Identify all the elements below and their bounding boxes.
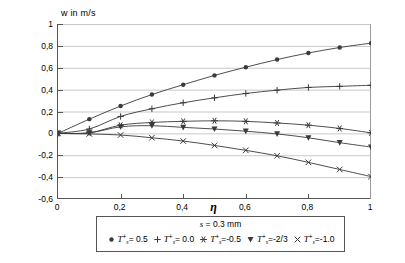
legend-marker-cross-icon <box>293 235 302 244</box>
legend-item: T+s=-0.5 <box>199 231 241 248</box>
legend-item: T+s=-1.0 <box>293 231 335 248</box>
y-tick-label: -0,4 <box>27 172 53 182</box>
legend: s = 0.3 mm T+s= 0.5T+s= 0.0T+s=-0.5T+s=-… <box>96 216 345 252</box>
legend-item-label: T+s=-2/3 <box>257 231 288 248</box>
legend-condition: s = 0.3 mm <box>97 219 344 230</box>
plot-canvas <box>58 24 371 199</box>
legend-marker-plus-icon <box>153 235 162 244</box>
data-marker <box>369 41 371 45</box>
legend-condition-value: = 0.3 mm <box>206 219 242 229</box>
legend-marker-filled-circle-icon <box>107 235 116 244</box>
x-tick-label: 0,8 <box>295 202 319 212</box>
y-tick-label: 0,6 <box>27 63 53 73</box>
x-tick-label: 0 <box>45 202 69 212</box>
x-tick-label: 0,4 <box>170 202 194 212</box>
legend-item-label: T+s=-1.0 <box>304 231 335 248</box>
y-tick-label: 0,4 <box>27 85 53 95</box>
series-line <box>58 85 371 133</box>
x-tick-label: 1 <box>358 202 382 212</box>
legend-marker-star-icon <box>199 235 208 244</box>
data-marker <box>244 65 248 69</box>
legend-item-label: T+s= 0.0 <box>164 231 194 248</box>
chart-screenshot: w in m/s 10,80,60,40,20-0,2-0,4-0,6 00,2… <box>0 0 405 263</box>
legend-item: T+s= 0.5 <box>107 231 148 248</box>
x-tick-label: 0,6 <box>233 202 257 212</box>
y-tick-label: -0,2 <box>27 150 53 160</box>
data-marker <box>118 104 122 108</box>
x-tick-label: 0,2 <box>108 202 132 212</box>
x-axis-title: η <box>210 200 217 215</box>
data-marker <box>306 51 310 55</box>
chart-figure: w in m/s 10,80,60,40,20-0,2-0,4-0,6 00,2… <box>0 0 405 263</box>
plot-area <box>57 24 370 199</box>
data-marker <box>87 117 91 121</box>
y-tick-label: 1 <box>27 19 53 29</box>
data-marker <box>109 237 113 241</box>
data-marker <box>150 92 154 96</box>
data-series <box>58 131 371 180</box>
y-axis-title: w in m/s <box>61 8 96 18</box>
legend-item-label: T+s=-0.5 <box>210 231 241 248</box>
legend-item-label: T+s= 0.5 <box>118 231 148 248</box>
data-marker <box>212 73 216 77</box>
legend-marker-filled-triangle-down-icon <box>246 235 255 244</box>
legend-condition-symbol: s <box>200 219 204 229</box>
y-tick-label: 0,8 <box>27 41 53 51</box>
y-tick-label: 0,2 <box>27 107 53 117</box>
data-marker <box>338 45 342 49</box>
legend-entries: T+s= 0.5T+s= 0.0T+s=-0.5T+s=-2/3T+s=-1.0 <box>97 231 344 248</box>
y-tick-label: 0 <box>27 128 53 138</box>
legend-item: T+s= 0.0 <box>153 231 194 248</box>
data-marker <box>181 83 185 87</box>
legend-item: T+s=-2/3 <box>246 231 288 248</box>
data-marker <box>275 57 279 61</box>
data-marker <box>247 237 253 243</box>
